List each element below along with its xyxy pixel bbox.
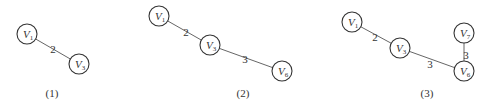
node-v3: V3: [69, 54, 89, 74]
edge-weight-label: 2: [50, 43, 56, 55]
spanning-tree-diagram: 2V1V3(1)23V1V3V6(2)233V1V3V7V6(3): [0, 0, 489, 108]
figure-2: 23V1V3V6(2): [149, 6, 292, 100]
figure-caption: (3): [421, 87, 434, 100]
node-v6: V6: [454, 61, 474, 81]
figure-caption: (2): [237, 87, 250, 100]
edge-weight-label: 2: [372, 31, 378, 43]
edge-weight-label: 3: [463, 49, 469, 61]
node-v3: V3: [200, 35, 220, 55]
edge-weight-label: 2: [183, 26, 189, 38]
node-v6: V6: [272, 61, 292, 81]
figure-3: 233V1V3V7V6(3): [342, 12, 474, 100]
edge-weight-label: 3: [242, 53, 248, 65]
edge-weight-label: 3: [427, 58, 433, 70]
node-v1: V1: [342, 12, 362, 32]
node-v1: V1: [149, 6, 169, 26]
figure-caption: (1): [46, 87, 59, 100]
node-v7: V7: [454, 23, 474, 43]
node-v3: V3: [390, 38, 410, 58]
node-v1: V1: [17, 24, 37, 44]
figure-1: 2V1V3(1): [17, 24, 89, 100]
